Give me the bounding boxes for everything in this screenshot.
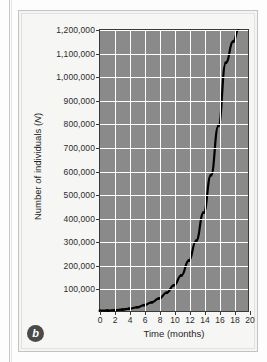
y-tick-label: 1,000,000 <box>56 72 95 82</box>
grid-line-horizontal <box>100 54 248 55</box>
y-tick-mark <box>96 54 100 55</box>
grid-line-horizontal <box>100 30 248 31</box>
x-tick-label: 8 <box>158 315 163 325</box>
y-tick-mark <box>96 172 100 173</box>
data-point-marker <box>151 301 154 304</box>
grid-line-vertical <box>175 30 176 311</box>
y-tick-mark <box>96 289 100 290</box>
y-tick-label: 300,000 <box>64 237 95 247</box>
grid-line-horizontal <box>100 219 248 220</box>
grid-line-vertical <box>160 30 161 311</box>
x-tick-label: 2 <box>113 315 118 325</box>
data-point-marker <box>210 174 213 177</box>
grid-line-horizontal <box>100 266 248 267</box>
y-tick-label: 900,000 <box>64 96 95 106</box>
grid-line-vertical <box>190 30 191 311</box>
y-tick-mark <box>96 195 100 196</box>
data-point-marker <box>180 274 183 277</box>
plot-area: 100,000200,000300,000400,000500,000600,0… <box>99 29 249 312</box>
grid-line-horizontal <box>100 289 248 290</box>
y-tick-mark <box>96 124 100 125</box>
x-tick-label: 6 <box>143 315 148 325</box>
y-tick-label: 500,000 <box>64 190 95 200</box>
x-tick-label: 14 <box>200 315 209 325</box>
x-tick-label: 4 <box>128 315 133 325</box>
y-tick-label: 600,000 <box>64 167 95 177</box>
page-gutter-rule-secondary <box>11 0 12 362</box>
grid-line-horizontal <box>100 172 248 173</box>
x-tick-label: 18 <box>230 315 239 325</box>
y-tick-mark <box>96 30 100 31</box>
y-axis-title: Number of individuals (N) <box>32 87 43 247</box>
data-point-marker <box>121 308 124 311</box>
grid-line-vertical <box>220 30 221 311</box>
grid-line-horizontal <box>100 124 248 125</box>
x-tick-label: 16 <box>215 315 224 325</box>
y-tick-label: 100,000 <box>64 284 95 294</box>
grid-line-vertical <box>115 30 116 311</box>
grid-line-vertical <box>130 30 131 311</box>
x-tick-label: 12 <box>185 315 194 325</box>
y-tick-mark <box>96 77 100 78</box>
x-axis-title: Time (months) <box>99 328 249 339</box>
y-tick-label: 800,000 <box>64 119 95 129</box>
grid-line-horizontal <box>100 195 248 196</box>
data-point-marker <box>106 309 109 312</box>
grid-line-horizontal <box>100 148 248 149</box>
y-tick-mark <box>96 242 100 243</box>
y-tick-mark <box>96 101 100 102</box>
y-tick-mark <box>96 219 100 220</box>
y-tick-label: 700,000 <box>64 143 95 153</box>
y-tick-label: 1,100,000 <box>56 49 95 59</box>
panel-letter-badge: b <box>27 325 44 342</box>
y-tick-mark <box>96 266 100 267</box>
curve-path <box>100 30 238 311</box>
y-axis-title-text: Number of individuals (N) <box>32 113 43 220</box>
grid-line-horizontal <box>100 101 248 102</box>
data-point-marker <box>225 61 228 64</box>
data-point-marker <box>136 306 139 309</box>
grid-line-horizontal <box>100 77 248 78</box>
growth-curve <box>100 30 248 311</box>
data-point-marker <box>165 291 168 294</box>
grid-line-vertical <box>235 30 236 311</box>
figure-panel: b Number of individuals (N) Time (months… <box>18 10 258 352</box>
grid-line-vertical <box>205 30 206 311</box>
y-tick-label: 400,000 <box>64 214 95 224</box>
x-tick-label: 0 <box>98 315 103 325</box>
y-tick-mark <box>96 148 100 149</box>
x-tick-label: 10 <box>170 315 179 325</box>
x-tick-label: 20 <box>245 315 254 325</box>
grid-line-vertical <box>145 30 146 311</box>
page-background: b Number of individuals (N) Time (months… <box>0 0 267 362</box>
y-tick-label: 1,200,000 <box>56 25 95 35</box>
y-tick-label: 200,000 <box>64 261 95 271</box>
grid-line-horizontal <box>100 242 248 243</box>
page-gutter-rule <box>9 0 10 362</box>
